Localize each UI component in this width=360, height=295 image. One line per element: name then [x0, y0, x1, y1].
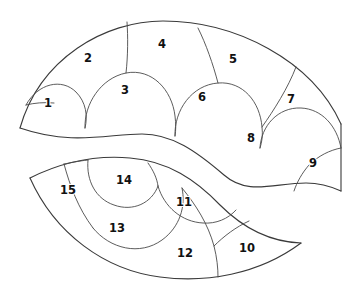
cell-13-label: 13	[109, 221, 125, 235]
scale-tiling-figure: 123456789101112131415	[0, 0, 360, 295]
cell-11-label: 11	[176, 195, 192, 209]
cell-12-label: 12	[177, 246, 193, 260]
cell-5-label: 5	[229, 52, 237, 66]
cell-1-label: 1	[44, 96, 52, 110]
cell-8-label: 8	[247, 131, 255, 145]
cell-7-label: 7	[287, 92, 295, 106]
cell-15-label: 15	[60, 183, 76, 197]
cell-14-label: 14	[116, 173, 132, 187]
diagram-canvas: 123456789101112131415	[0, 0, 360, 295]
cell-6-label: 6	[198, 90, 206, 104]
cell-4-label: 4	[158, 37, 166, 51]
cell-2-label: 2	[84, 51, 92, 65]
cell-10-label: 10	[239, 241, 255, 255]
cell-9-label: 9	[309, 156, 317, 170]
cell-3-label: 3	[121, 83, 129, 97]
